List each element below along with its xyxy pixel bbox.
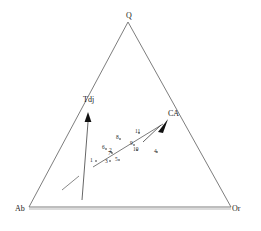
tdj-trend-arrow-shaft	[82, 122, 88, 200]
auxiliary-line-segment	[62, 176, 79, 190]
point-label-5: 5	[115, 157, 118, 163]
triangle-outline	[29, 22, 231, 209]
data-point	[118, 159, 120, 161]
point-label-1: 1	[90, 158, 93, 164]
data-point	[119, 138, 121, 140]
vector-arrows	[82, 112, 168, 200]
point-label-7: 7	[108, 151, 111, 157]
vector-label-tdj: Tdj	[83, 96, 94, 104]
ternary-diagram-figure: Q Ab Or Tdj CA 1 2 3 4 5 6 7 8 9 10 11	[0, 0, 261, 231]
ternary-plot-canvas	[0, 0, 261, 231]
point-label-4: 4	[154, 149, 157, 155]
point-label-8: 8	[116, 135, 119, 141]
point-label-3: 3	[105, 159, 108, 165]
tdj-arrowhead-icon	[85, 112, 92, 122]
data-point	[105, 148, 107, 150]
vector-label-ca: CA	[168, 110, 179, 118]
point-label-6: 6	[102, 145, 105, 151]
data-point	[109, 160, 111, 162]
data-point	[95, 160, 97, 162]
data-trend-line	[62, 124, 163, 190]
point-label-11: 11	[135, 129, 140, 135]
apex-label-or: Or	[232, 205, 240, 213]
ca-trend-arrow-shaft	[143, 125, 161, 142]
apex-label-ab: Ab	[15, 205, 25, 213]
point-label-10: 10	[133, 147, 139, 153]
apex-label-q: Q	[126, 12, 132, 20]
ternary-triangle-border	[29, 22, 231, 207]
